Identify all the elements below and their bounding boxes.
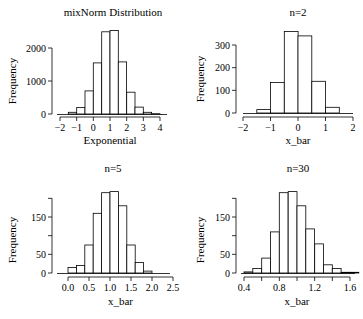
- y-tick-label: 0: [225, 268, 230, 279]
- histogram-bar: [297, 206, 306, 273]
- x-tick-label: −2: [238, 122, 249, 133]
- histogram-bar: [244, 272, 253, 273]
- histogram-bar: [257, 110, 271, 113]
- y-tick-label: 50: [36, 249, 46, 260]
- histogram-bar: [118, 62, 126, 114]
- histogram-bar: [110, 192, 118, 273]
- histogram-panel-1: mixNorm Distribution−2−101234Exponential…: [6, 6, 167, 146]
- x-tick-label: −1: [265, 122, 276, 133]
- x-tick-label: 1: [108, 122, 113, 133]
- histogram-bar: [350, 272, 359, 273]
- bars: [68, 192, 152, 273]
- x-tick-label: 1.2: [308, 282, 321, 293]
- y-tick-label: 300: [215, 40, 230, 51]
- y-tick-label: 0: [41, 268, 46, 279]
- y-axis: 050150: [215, 198, 236, 278]
- y-axis-label: Frequency: [6, 57, 18, 104]
- x-tick-label: 2: [124, 122, 129, 133]
- y-axis-label: Frequency: [6, 216, 18, 263]
- x-tick-label: 0.5: [83, 282, 96, 293]
- x-axis-label: x_bar: [284, 295, 309, 307]
- bars: [257, 31, 340, 113]
- histogram-bar: [279, 193, 288, 273]
- histogram-bar: [68, 112, 76, 114]
- histogram-bar: [127, 245, 135, 273]
- x-tick-label: 1.6: [344, 282, 357, 293]
- histogram-panel-4: n=300.40.81.21.6x_bar050150Frequency: [194, 162, 359, 307]
- histogram-bar: [326, 107, 340, 113]
- histogram-bar: [77, 107, 85, 114]
- histogram-bar: [93, 63, 101, 114]
- y-tick-label: 50: [220, 249, 230, 260]
- x-tick-label: 1.0: [104, 282, 117, 293]
- histogram-bar: [288, 192, 297, 273]
- x-tick-label: 4: [158, 122, 163, 133]
- x-axis: −2−1012: [238, 117, 356, 133]
- histogram-bar: [284, 31, 298, 113]
- x-axis: 0.40.81.21.6: [238, 277, 357, 293]
- y-axis: 0100200300: [215, 40, 236, 119]
- x-tick-label: −1: [71, 122, 82, 133]
- bars: [68, 31, 160, 115]
- x-tick-label: 0: [296, 122, 301, 133]
- histogram-panel-3: n=50.00.51.01.52.02.5x_bar050150Frequenc…: [6, 162, 179, 307]
- histogram-bar: [298, 36, 312, 113]
- x-tick-label: 2.0: [146, 282, 159, 293]
- y-tick-label: 100: [215, 85, 230, 96]
- x-tick-label: 1: [323, 122, 328, 133]
- histogram-bar: [253, 269, 262, 274]
- y-tick-label: 0: [41, 109, 46, 120]
- histogram-bar: [306, 229, 315, 273]
- x-tick-label: 2.5: [167, 282, 180, 293]
- y-axis: 010002000: [26, 43, 52, 120]
- x-axis: 0.00.51.01.52.02.5: [62, 277, 180, 293]
- histogram-bar: [76, 266, 84, 274]
- histogram-bar: [93, 213, 101, 273]
- y-axis-label: Frequency: [194, 216, 206, 263]
- x-tick-label: 0.8: [273, 282, 286, 293]
- histogram-bar: [68, 267, 76, 273]
- histogram-bar: [110, 31, 118, 115]
- x-axis-label: x_bar: [108, 295, 133, 307]
- chart-title: n=5: [104, 162, 122, 174]
- x-axis-label: Exponential: [83, 134, 136, 146]
- histogram-bar: [315, 244, 324, 273]
- x-axis-label: x_bar: [285, 134, 310, 146]
- x-tick-label: 3: [141, 122, 146, 133]
- x-tick-label: 1.5: [125, 282, 138, 293]
- charts-canvas: mixNorm Distribution−2−101234Exponential…: [0, 0, 363, 319]
- y-tick-label: 150: [215, 212, 230, 223]
- histogram-bar: [118, 206, 126, 273]
- y-tick-label: 200: [215, 62, 230, 73]
- x-tick-label: 2: [351, 122, 356, 133]
- y-tick-label: 2000: [26, 43, 46, 54]
- x-tick-label: 0.0: [62, 282, 75, 293]
- x-tick-label: −2: [55, 122, 66, 133]
- histogram-bar: [135, 107, 143, 114]
- histogram-bar: [102, 32, 110, 114]
- histogram-bar: [127, 92, 135, 114]
- y-tick-label: 150: [31, 212, 46, 223]
- x-axis: −2−101234: [55, 117, 163, 133]
- histogram-bar: [85, 245, 93, 273]
- histogram-bar: [341, 272, 350, 273]
- x-tick-label: 0: [91, 122, 96, 133]
- y-axis-label: Frequency: [194, 55, 206, 102]
- histogram-bar: [144, 271, 152, 273]
- bars: [244, 192, 359, 273]
- histogram-bar: [332, 269, 341, 274]
- histogram-bar: [85, 91, 93, 114]
- histogram-bar: [135, 263, 143, 274]
- histogram-bar: [271, 232, 280, 273]
- histogram-bar: [143, 112, 151, 114]
- histogram-bar: [262, 258, 271, 273]
- histogram-panel-2: n=2−2−1012x_bar0100200300Frequency: [194, 6, 356, 146]
- histogram-bar: [102, 193, 110, 273]
- histogram-bar: [324, 265, 333, 273]
- y-axis: 050150: [31, 198, 52, 278]
- histogram-bar: [312, 81, 326, 113]
- x-tick-label: 0.4: [238, 282, 251, 293]
- y-tick-label: 1000: [26, 76, 46, 87]
- chart-title: mixNorm Distribution: [64, 6, 163, 18]
- chart-title: n=2: [289, 6, 306, 18]
